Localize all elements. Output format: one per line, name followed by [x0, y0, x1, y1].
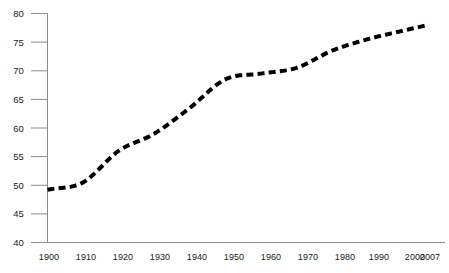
data-series-line	[48, 25, 429, 190]
y-axis-label-50: 50	[6, 181, 24, 191]
x-axis-label-1990: 1990	[360, 253, 398, 262]
x-axis-label-1950: 1950	[215, 253, 253, 262]
x-axis-label-1920: 1920	[104, 253, 142, 262]
x-axis-label-1960: 1960	[252, 253, 290, 262]
x-axis-label-1940: 1940	[178, 253, 216, 262]
x-axis-label-1910: 1910	[67, 253, 105, 262]
x-axis-label-2007: 2007	[411, 253, 449, 262]
y-axis-label-70: 70	[6, 66, 24, 76]
y-axis-label-55: 55	[6, 152, 24, 162]
x-axis-label-1980: 1980	[326, 253, 364, 262]
y-axis-label-45: 45	[6, 209, 24, 219]
y-axis-label-75: 75	[6, 38, 24, 48]
y-axis-label-80: 80	[6, 9, 24, 19]
y-axis-label-65: 65	[6, 95, 24, 105]
chart-plot-area	[0, 0, 449, 273]
x-axis-label-1900: 1900	[30, 253, 68, 262]
x-axis-label-1930: 1930	[141, 253, 179, 262]
x-axis-label-1970: 1970	[289, 253, 327, 262]
y-axis-label-60: 60	[6, 124, 24, 134]
line-chart: 80 75 70 65 60 55 50 45 40 1900 1910 192…	[0, 0, 449, 273]
y-axis-ticks	[31, 14, 48, 243]
y-axis-label-40: 40	[6, 238, 24, 248]
